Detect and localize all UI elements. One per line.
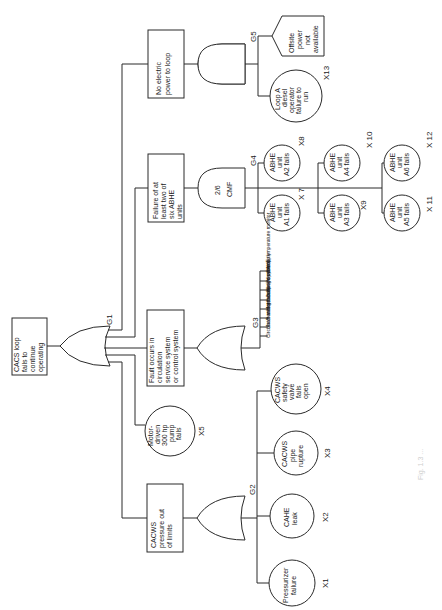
event-id-label: X8	[297, 136, 306, 146]
event-id-label: X13	[322, 65, 331, 80]
event-line: power to loop	[164, 53, 172, 95]
top-event-line: CACS loop	[13, 337, 21, 372]
svg-text:fails to: fails to	[21, 352, 28, 372]
svg-text:CACWS: CACWS	[274, 377, 281, 403]
svg-text:unit: unit	[276, 157, 283, 168]
svg-text:operating: operating	[37, 343, 45, 372]
event-abhe-failure: Failure of at least two of six ABHE unit…	[148, 154, 184, 222]
event-line: unit	[336, 207, 343, 218]
g3-input: CAHE temperature monitor	[265, 212, 271, 273]
g3-input-list: Circulator motor failure Shaft and struc…	[260, 212, 271, 338]
and-gate-body	[198, 44, 245, 84]
svg-text:six ABHE: six ABHE	[168, 189, 175, 219]
or-gate-icon	[60, 326, 110, 366]
event-line: driven	[154, 425, 161, 444]
svg-text:of limits: of limits	[166, 524, 173, 548]
event-line: leak	[291, 512, 298, 525]
svg-text:run: run	[302, 92, 309, 102]
gate-label: G5	[249, 31, 258, 42]
event-line: ABHE	[389, 153, 396, 172]
event-line: Offsite	[288, 33, 295, 53]
event-no-electric-power: No electric power to loop	[148, 30, 184, 98]
svg-text:Offsite: Offsite	[288, 33, 295, 53]
svg-text:unit: unit	[336, 207, 343, 218]
svg-text:No electric: No electric	[155, 61, 162, 95]
or-gate-icon	[197, 326, 245, 370]
gate-g2-or: G2	[197, 484, 257, 540]
event-line: Pressurizer	[282, 567, 289, 603]
gate-label: G2	[248, 484, 257, 495]
svg-text:or control system: or control system	[172, 330, 180, 383]
event-id-label: X 7	[297, 187, 306, 200]
event-line: Fault occurs in	[148, 337, 155, 383]
event-line: Motor-	[147, 425, 154, 446]
top-event-line: operating	[37, 343, 45, 372]
event-line: units	[176, 204, 183, 219]
event-line: service system	[164, 337, 172, 383]
event-line: available	[312, 25, 319, 53]
event-line: A2 fails	[283, 153, 290, 176]
svg-text:failure to: failure to	[295, 87, 302, 114]
svg-text:units: units	[176, 204, 183, 219]
event-line: unit	[336, 157, 343, 168]
svg-text:Motor-: Motor-	[147, 425, 154, 446]
svg-text:CACS loop: CACS loop	[13, 337, 21, 372]
svg-text:least two of: least two of	[160, 184, 167, 219]
or-gate-icon	[197, 496, 245, 540]
basic-event-x11: ABHE unit A5 fails X 11	[384, 195, 434, 231]
svg-text:unit: unit	[396, 207, 403, 218]
svg-text:leak: leak	[291, 512, 298, 525]
event-line: unit	[396, 157, 403, 168]
fault-tree-diagram: CACS loop fails to continue operating G1…	[0, 0, 442, 610]
event-id-label: X 12	[425, 131, 434, 148]
event-id-label: X 11	[425, 196, 434, 212]
event-line: CACWS	[274, 377, 281, 403]
gate-text: 2/6	[214, 185, 221, 195]
event-line: valve	[288, 384, 295, 400]
svg-text:A3 fails: A3 fails	[343, 203, 350, 226]
svg-text:pipe: pipe	[289, 449, 297, 462]
event-line: circulation	[156, 351, 163, 383]
event-line: unit	[396, 207, 403, 218]
svg-text:ABHE: ABHE	[269, 153, 276, 172]
basic-event-x2: CAHE leak X2	[270, 494, 330, 538]
basic-event-x5: Motor- driven 300 hp pump fails X5	[145, 406, 206, 456]
gate-g1-or: G1	[60, 314, 114, 366]
event-line: diesel	[281, 88, 288, 107]
top-event: CACS loop fails to continue operating	[12, 318, 47, 375]
event-line: No electric	[155, 61, 162, 95]
event-line: unit	[276, 207, 283, 218]
basic-event-x4: CACWS safety valve fails open X4	[271, 364, 332, 414]
gate-label: G1	[105, 314, 114, 325]
basic-event-x9: ABHE unit A3 fails X9	[324, 195, 368, 231]
svg-text:not: not	[304, 35, 311, 45]
svg-text:open: open	[302, 383, 310, 399]
event-offsite-power: Offsite power not available	[272, 16, 324, 56]
svg-text:Pressurizer: Pressurizer	[282, 567, 289, 603]
event-line: failure to	[295, 87, 302, 114]
event-line: pipe	[289, 449, 297, 462]
figure-caption: Fig. 1.3 ...	[417, 449, 425, 480]
basic-event-x13: Loop A diesel operator failure to run X1…	[270, 65, 331, 122]
event-line: A5 fails	[403, 203, 410, 226]
gate-g5-and: G5	[198, 31, 258, 84]
svg-text:diesel: diesel	[281, 88, 288, 107]
svg-text:rupture: rupture	[297, 445, 305, 467]
basic-event-x1: Pressurizer failure X1	[269, 560, 330, 606]
event-line: not	[304, 35, 311, 45]
event-circulation-fault: Fault occurs in circulation service syst…	[147, 310, 184, 386]
event-line: A3 fails	[343, 203, 350, 226]
svg-text:fails: fails	[175, 427, 182, 440]
event-id-label: X9	[359, 200, 368, 210]
gate-g3-or: G3	[197, 317, 260, 370]
event-line: A4 fails	[343, 153, 350, 176]
svg-text:power: power	[296, 29, 304, 49]
svg-text:circulation: circulation	[156, 351, 163, 383]
svg-text:unit: unit	[336, 157, 343, 168]
svg-text:failure: failure	[290, 576, 297, 595]
event-id-label: X2	[321, 512, 330, 522]
event-line: fails	[295, 385, 302, 398]
event-id-label: X1	[321, 578, 330, 588]
svg-text:Failure of at: Failure of at	[152, 182, 159, 219]
event-id-label: X4	[323, 386, 332, 396]
